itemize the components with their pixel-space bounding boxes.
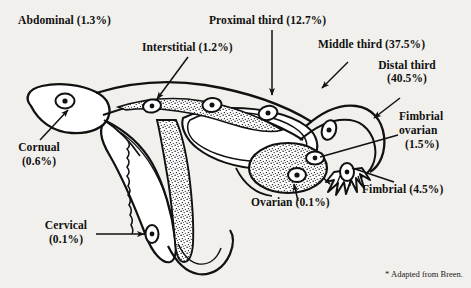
label-abdominal: Abdominal (1.3%)	[18, 14, 111, 27]
label-cervical: Cervical	[35, 219, 97, 232]
label-distal-third: Distal third	[361, 59, 453, 72]
label-fimbrial-ovarian-percent: (1.5%)	[405, 138, 439, 151]
label-distal-third-percent: (40.5%)	[361, 72, 453, 85]
label-interstitial: Interstitial (1.2%)	[142, 41, 233, 54]
marker-cornual	[56, 94, 75, 109]
ovary-body-stipple	[249, 143, 327, 193]
label-cornual-percent: (0.6%)	[8, 155, 70, 168]
marker-proximal-third	[202, 97, 222, 113]
label-fimbrial: Fimbrial (4.5%)	[362, 183, 443, 196]
label-ovarian: Ovarian (0.1%)	[251, 196, 330, 209]
label-fimbrial-ovarian-line2: ovarian	[399, 124, 437, 137]
marker-fimbrial	[340, 163, 354, 181]
label-middle-third: Middle third (37.5%)	[318, 38, 425, 51]
label-cornual: Cornual	[8, 141, 70, 154]
label-cervical-percent: (0.1%)	[35, 233, 97, 246]
source-credit: * Adapted from Breen.	[385, 269, 463, 279]
right-ovary	[249, 143, 327, 193]
arrow-middle-third	[322, 62, 348, 88]
marker-ovarian	[288, 168, 306, 182]
marker-fimbrial-ovarian	[306, 152, 324, 165]
arrow-interstitial	[157, 57, 188, 99]
marker-distal-third	[319, 118, 338, 141]
marker-cervical	[146, 225, 159, 243]
arrow-distal-third	[374, 98, 400, 118]
label-proximal-third: Proximal third (12.7%)	[209, 14, 326, 27]
label-fimbrial-ovarian: Fimbrial	[399, 110, 443, 123]
